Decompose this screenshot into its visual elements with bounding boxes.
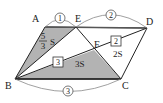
area-abe-numerator: 5 (41, 31, 46, 41)
parallelogram-diagram: 1 2 3 3 2 A E D F B C 5 3 S 3S 2S (0, 0, 163, 103)
label-c: C (122, 80, 129, 91)
label-e: E (75, 13, 81, 24)
ratio-ae: 1 (58, 14, 62, 23)
ratio-fd: 2 (114, 37, 118, 46)
ratio-ed: 2 (109, 11, 113, 20)
label-f: F (94, 39, 100, 50)
area-fcd: 2S (113, 49, 123, 59)
ratio-bc: 3 (66, 87, 70, 96)
area-abe-denominator: 3 (41, 41, 46, 51)
label-a: A (32, 13, 40, 24)
label-b: B (5, 80, 12, 91)
label-d: D (146, 16, 153, 27)
area-abe-suffix: S (50, 37, 55, 47)
area-fbc: 3S (75, 59, 85, 69)
ratio-bf: 3 (56, 58, 60, 67)
top-edge-ad (45, 27, 147, 28)
